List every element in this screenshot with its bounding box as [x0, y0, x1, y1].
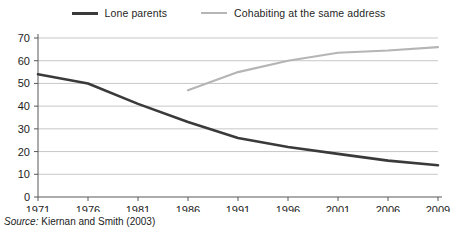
- line-swatch-icon: [201, 12, 227, 14]
- source-text: Kiernan and Smith (2003): [41, 216, 155, 227]
- legend-label-lone-parents: Lone parents: [105, 7, 168, 19]
- line-swatch-icon: [72, 12, 98, 15]
- legend-entry-cohabiting: Cohabiting at the same address: [201, 7, 385, 19]
- legend-label-cohabiting: Cohabiting at the same address: [234, 7, 385, 19]
- chart-legend: Lone parents Cohabiting at the same addr…: [0, 4, 457, 22]
- plot-area: 010203040506070 197119761981198619911996…: [0, 24, 457, 212]
- source-label: Source:: [4, 216, 38, 227]
- y-axis-tick-label: 20: [18, 146, 30, 158]
- y-axis-ticks-group: [34, 38, 38, 197]
- y-axis-tick-label: 0: [24, 191, 30, 203]
- y-axis-tick-label: 50: [18, 77, 30, 89]
- y-axis-tick-label: 30: [18, 123, 30, 135]
- y-axis-labels-group: 010203040506070: [18, 32, 30, 203]
- x-axis-tick-label: 1981: [126, 204, 150, 212]
- x-axis-tick-label: 2001: [326, 204, 350, 212]
- x-axis-tick-label: 1971: [26, 204, 50, 212]
- x-axis-tick-label: 1986: [176, 204, 200, 212]
- legend-entry-lone-parents: Lone parents: [72, 7, 168, 19]
- x-axis-ticks-group: [38, 197, 438, 201]
- figure-chart-lone-parents-cohabiting: Lone parents Cohabiting at the same addr…: [0, 0, 457, 236]
- y-axis-tick-label: 60: [18, 55, 30, 67]
- x-axis-tick-label: 1991: [226, 204, 250, 212]
- source-note: Source: Kiernan and Smith (2003): [4, 215, 155, 228]
- x-axis-labels-group: 197119761981198619911996200120062009: [26, 204, 450, 212]
- chart-svg: 010203040506070 197119761981198619911996…: [0, 24, 457, 212]
- x-axis-tick-label: 1996: [276, 204, 300, 212]
- y-axis-tick-label: 40: [18, 100, 30, 112]
- y-axis-tick-label: 10: [18, 168, 30, 180]
- x-axis-tick-label: 1976: [76, 204, 100, 212]
- x-axis-tick-label: 2006: [376, 204, 400, 212]
- y-axis-tick-label: 70: [18, 32, 30, 44]
- gridlines-group: [38, 38, 438, 174]
- x-axis-tick-label: 2009: [426, 204, 450, 212]
